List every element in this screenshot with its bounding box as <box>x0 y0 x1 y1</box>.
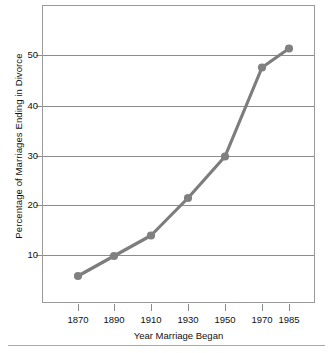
gridline-30 <box>43 156 314 157</box>
x-tick-label-1985: 1985 <box>269 314 309 325</box>
x-tick-mark-1950 <box>225 304 226 311</box>
y-tick-label-40: 40 <box>14 101 38 111</box>
x-tick-mark-1870 <box>78 304 79 311</box>
x-tick-label-1870: 1870 <box>58 314 98 325</box>
x-tick-label-1930: 1930 <box>168 314 208 325</box>
gridline-20 <box>43 205 314 206</box>
plot-area <box>42 5 315 303</box>
x-tick-mark-1890 <box>114 304 115 311</box>
x-tick-mark-1970 <box>262 304 263 311</box>
x-tick-label-1950: 1950 <box>205 314 245 325</box>
gridline-40 <box>43 106 314 107</box>
y-tick-label-30: 30 <box>14 151 38 161</box>
footer-rule <box>8 345 325 346</box>
y-tick-label-10: 10 <box>14 250 38 260</box>
gridline-10 <box>43 255 314 256</box>
x-tick-label-1890: 1890 <box>94 314 134 325</box>
x-tick-mark-1985 <box>289 304 290 311</box>
gridline-50 <box>43 55 314 56</box>
y-tick-label-50: 50 <box>14 50 38 60</box>
x-tick-label-1910: 1910 <box>131 314 171 325</box>
y-tick-label-20: 20 <box>14 200 38 210</box>
divorce-rate-line-chart: Percentage of Marriages Ending in Divorc… <box>0 0 333 353</box>
x-tick-mark-1930 <box>188 304 189 311</box>
x-tick-mark-1910 <box>151 304 152 311</box>
x-axis-title: Year Marriage Began <box>42 330 315 342</box>
